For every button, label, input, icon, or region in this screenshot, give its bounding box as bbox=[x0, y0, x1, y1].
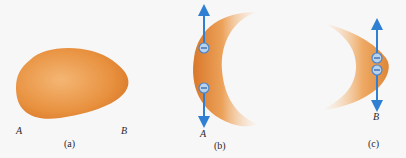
panel-a-caption: (a) bbox=[64, 139, 75, 149]
panel-a-label-a: A bbox=[16, 126, 22, 136]
panel-c-negative-charge-upper bbox=[372, 53, 382, 63]
panel-a-conductor bbox=[16, 48, 128, 119]
panel-c-caption: (c) bbox=[368, 139, 379, 149]
panel-b-negative-charge-upper bbox=[199, 43, 209, 53]
panel-a-label-b: B bbox=[121, 126, 127, 136]
panel-b-label-a: A bbox=[200, 129, 206, 139]
panel-b-negative-charge-lower bbox=[199, 83, 209, 93]
panel-c-negative-charge-lower bbox=[372, 65, 382, 75]
panel-b-conductor bbox=[193, 12, 258, 126]
panel-b-caption: (b) bbox=[214, 141, 226, 151]
panel-c-label-b: B bbox=[373, 112, 379, 122]
